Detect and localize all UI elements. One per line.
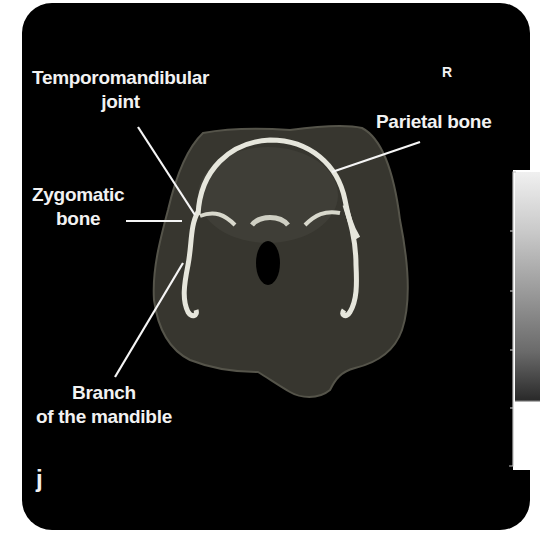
scale-bracket [509, 172, 516, 466]
label-parietal-bone: Parietal bone [376, 110, 491, 134]
orientation-marker: R [442, 60, 452, 84]
label-temporomandibular-joint: Temporomandibular joint [32, 66, 209, 114]
airway [256, 241, 280, 285]
label-branch-of-mandible: Branch of the mandible [36, 381, 172, 429]
panel-letter: j [36, 467, 42, 491]
label-zygomatic-bone: Zygomatic bone [32, 183, 124, 231]
